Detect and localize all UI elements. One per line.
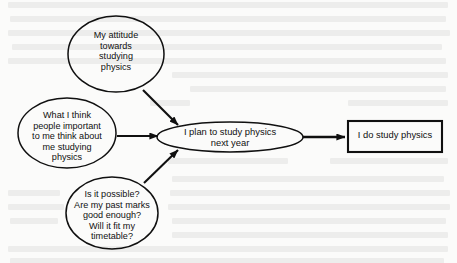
flow-diagram (0, 0, 457, 263)
node-intention (157, 122, 303, 152)
arrow-control-to-intention (144, 150, 178, 183)
diagram-page: My attitude towards studying physics Wha… (0, 0, 457, 263)
node-attitude (68, 16, 164, 92)
node-behaviour (348, 121, 442, 152)
arrow-attitude-to-intention (143, 90, 178, 125)
node-perceived-control (66, 177, 158, 249)
node-subjective-norm (18, 98, 116, 168)
